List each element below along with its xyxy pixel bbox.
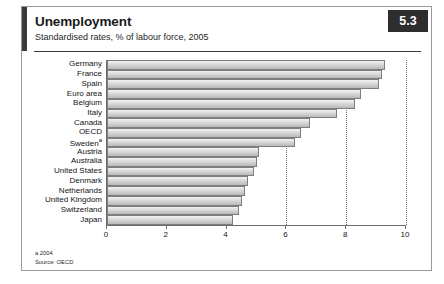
bar-row (107, 176, 406, 186)
bar-row (107, 206, 406, 216)
bar-row (107, 99, 406, 109)
bar-euro-area (107, 89, 361, 99)
bar-united-states (107, 167, 254, 177)
page-title: Unemployment (35, 14, 131, 29)
category-label-spain: Spain (22, 79, 102, 88)
category-label-belgium: Belgium (22, 98, 102, 107)
category-label-france: France (22, 69, 102, 78)
x-tick-mark (106, 226, 107, 229)
bar-sweden (107, 138, 295, 148)
bar-row (107, 60, 406, 70)
bar-australia (107, 157, 257, 167)
x-tick-label: 0 (104, 230, 108, 239)
category-label-united-kingdom: United Kingdom (22, 195, 102, 204)
x-tick-mark (405, 226, 406, 229)
title-accent-bar (22, 7, 27, 51)
bar-row (107, 215, 406, 225)
x-tick-mark (345, 226, 346, 229)
category-label-australia: Australia (22, 156, 102, 165)
bar-row (107, 109, 406, 119)
footnote-source: Source: OECD (35, 258, 73, 267)
bar-row (107, 89, 406, 99)
x-axis: 0246810 (106, 226, 406, 242)
category-label-oecd: OECD (22, 127, 102, 136)
chart-figure: Unemployment Standardised rates, % of la… (21, 6, 432, 271)
x-tick-label: 4 (223, 230, 227, 239)
category-label-switzerland: Switzerland (22, 205, 102, 214)
footnote: a 2004 Source: OECD (35, 249, 73, 267)
bar-austria (107, 147, 259, 157)
category-label-austria: Austria (22, 147, 102, 156)
x-tick-label: 8 (343, 230, 347, 239)
x-tick-mark (226, 226, 227, 229)
category-label-canada: Canada (22, 118, 102, 127)
category-label-netherlands: Netherlands (22, 186, 102, 195)
x-tick-mark (285, 226, 286, 229)
bar-row (107, 196, 406, 206)
plot-area (106, 60, 406, 225)
bar-italy (107, 109, 337, 119)
bar-row (107, 128, 406, 138)
category-axis-labels: GermanyFranceSpainEuro areaBelgiumItalyC… (22, 60, 102, 225)
bar-row (107, 118, 406, 128)
bar-oecd (107, 128, 301, 138)
category-label-italy: Italy (22, 108, 102, 117)
bar-canada (107, 118, 310, 128)
x-tick-label: 10 (401, 230, 410, 239)
bar-row (107, 147, 406, 157)
category-label-united-states: United States (22, 166, 102, 175)
bar-row (107, 138, 406, 148)
bar-germany (107, 60, 385, 70)
title-divider (34, 51, 421, 52)
chart-subtitle: Standardised rates, % of labour force, 2… (35, 32, 209, 42)
bar-row (107, 70, 406, 80)
x-tick-label: 6 (283, 230, 287, 239)
category-label-denmark: Denmark (22, 176, 102, 185)
bar-japan (107, 215, 233, 225)
bar-row (107, 157, 406, 167)
bar-belgium (107, 99, 355, 109)
category-label-japan: Japan (22, 215, 102, 224)
x-tick-label: 2 (164, 230, 168, 239)
bar-united-kingdom (107, 196, 242, 206)
bar-france (107, 70, 382, 80)
bar-switzerland (107, 206, 239, 216)
bar-netherlands (107, 186, 245, 196)
chart-number-badge: 5.3 (388, 10, 428, 32)
footnote-a: a 2004 (35, 249, 73, 258)
gridline (406, 60, 407, 225)
bar-spain (107, 79, 379, 89)
bar-row (107, 186, 406, 196)
x-tick-mark (166, 226, 167, 229)
category-label-germany: Germany (22, 59, 102, 68)
bar-row (107, 167, 406, 177)
bar-row (107, 79, 406, 89)
bar-denmark (107, 176, 248, 186)
category-label-euro-area: Euro area (22, 89, 102, 98)
